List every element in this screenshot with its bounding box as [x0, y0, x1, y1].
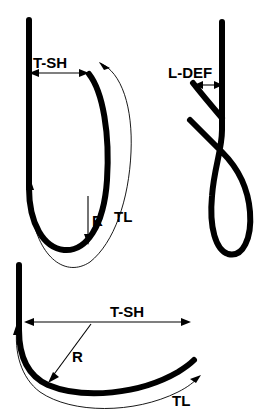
tl-arrowhead-top-upper [99, 62, 110, 70]
panel-bottom: T-SH R TL [13, 265, 201, 409]
tl-arrowhead-bottom-right [190, 375, 201, 383]
t-sh-label-top: T-SH [33, 54, 67, 71]
r-arrowhead-bottom [48, 372, 59, 383]
panel-top-right: L-DEF [168, 22, 250, 255]
t-sh-arrowhead-right-bottom [181, 318, 191, 326]
catheter-shaft-top-right [190, 22, 250, 255]
catheter-body-bottom [19, 265, 194, 393]
catheter-geometry-diagram: T-SH R TL L-DEF [0, 0, 271, 416]
r-label-top: R [92, 212, 103, 229]
tl-label-bottom: TL [172, 392, 190, 409]
diagram-canvas: T-SH R TL L-DEF [0, 0, 271, 416]
t-sh-label-bottom: T-SH [110, 303, 144, 320]
catheter-deflected-limb-top-right [193, 83, 222, 118]
l-def-label: L-DEF [168, 64, 212, 81]
tl-label-top: TL [114, 208, 132, 225]
t-sh-arrowhead-left-bottom [24, 318, 34, 326]
panel-top-left: T-SH R TL [26, 20, 132, 267]
r-label-bottom: R [72, 348, 83, 365]
